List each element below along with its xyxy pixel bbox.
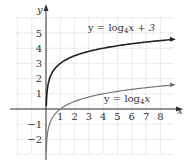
y-tick-label: 2 bbox=[36, 73, 42, 84]
y-tick-label: −2 bbox=[27, 134, 42, 145]
x-tick-label: 1 bbox=[57, 111, 63, 122]
x-tick-label: 6 bbox=[129, 111, 135, 122]
y-axis-label: y bbox=[36, 4, 43, 15]
y-tick-label: 1 bbox=[36, 88, 42, 99]
log-graph: 1234567854321−1−2 x y y = log4x + 3 y = … bbox=[0, 0, 193, 164]
curve-log4x-arrow-icon bbox=[170, 82, 176, 87]
x-axis-label: x bbox=[177, 105, 183, 116]
x-tick-label: 5 bbox=[114, 111, 120, 122]
curve-log4x-plus-3-arrow-icon bbox=[170, 37, 176, 42]
y-tick-label: 5 bbox=[36, 28, 42, 39]
y-tick-label: 4 bbox=[36, 43, 42, 54]
curve-label-lower: y = log4x bbox=[103, 93, 150, 106]
x-tick-label: 8 bbox=[157, 111, 163, 122]
y-axis-arrow-icon bbox=[44, 4, 49, 11]
y-tick-label: −1 bbox=[27, 119, 42, 130]
y-tick-label: 3 bbox=[36, 58, 42, 69]
x-tick-label: 4 bbox=[100, 111, 106, 122]
x-tick-label: 2 bbox=[71, 111, 77, 122]
x-tick-label: 3 bbox=[86, 111, 92, 122]
x-tick-label: 7 bbox=[143, 111, 149, 122]
